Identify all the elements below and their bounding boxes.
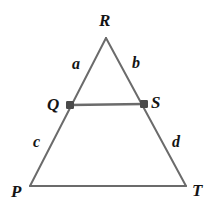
side-label-a: a (72, 56, 80, 72)
vertex-label-T: T (192, 182, 202, 199)
triangle-diagram-svg (0, 0, 210, 211)
vertex-label-P: P (11, 183, 21, 200)
side-label-c: c (33, 134, 40, 150)
segment-Q-S (70, 104, 144, 105)
point-marker-Q (66, 101, 74, 109)
segment-R-P (30, 38, 106, 186)
vertex-label-Q: Q (47, 96, 59, 113)
vertex-label-S: S (151, 94, 160, 111)
segment-R-T (106, 38, 186, 186)
geometry-figure: R Q S P T a b c d (0, 0, 210, 211)
vertex-label-R: R (99, 12, 110, 29)
side-label-d: d (172, 134, 180, 150)
side-label-b: b (132, 55, 140, 71)
point-marker-S (140, 100, 148, 108)
